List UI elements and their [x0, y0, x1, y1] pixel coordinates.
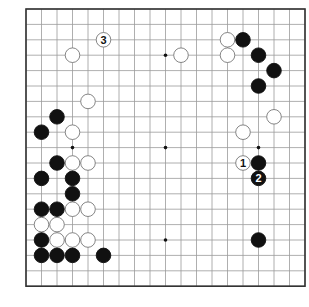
- white-stone-icon: [81, 202, 96, 217]
- white-stone-icon: [236, 125, 251, 140]
- white-stone-icon: [81, 233, 96, 248]
- black-stone-icon: [251, 79, 266, 94]
- white-stone-icon: [65, 125, 80, 140]
- black-stone-icon: [50, 156, 65, 171]
- white-stone-icon: [50, 233, 65, 248]
- black-stone-icon: [96, 248, 111, 263]
- star-point-icon: [164, 53, 168, 57]
- white-stone-icon: [81, 94, 96, 109]
- black-stone-icon: [251, 233, 266, 248]
- black-stone-icon: [34, 202, 49, 217]
- black-stone-icon: [65, 187, 80, 202]
- black-stone-icon: [50, 110, 65, 125]
- black-stone-icon: [236, 33, 251, 48]
- black-stone-icon: [34, 125, 49, 140]
- star-point-icon: [164, 238, 168, 242]
- go-board: 123: [0, 0, 309, 307]
- star-point-icon: [71, 146, 75, 150]
- white-stone-icon: [65, 233, 80, 248]
- white-stone-icon: [65, 48, 80, 63]
- white-stone-icon: [174, 48, 189, 63]
- white-stone-icon: [220, 33, 235, 48]
- black-stone-icon: [251, 48, 266, 63]
- black-stone-icon: [65, 171, 80, 186]
- move-number-label: 3: [100, 34, 106, 46]
- white-stone-icon: [34, 217, 49, 232]
- black-stone-icon: [34, 233, 49, 248]
- black-stone-icon: [65, 248, 80, 263]
- star-point-icon: [257, 146, 261, 150]
- star-point-icon: [164, 146, 168, 150]
- move-number-label: 2: [255, 172, 261, 184]
- white-stone-icon: [65, 202, 80, 217]
- white-stone-icon: [65, 156, 80, 171]
- black-stone-icon: [251, 156, 266, 171]
- move-number-label: 1: [240, 157, 246, 169]
- black-stone-icon: [34, 171, 49, 186]
- white-stone-icon: [81, 156, 96, 171]
- black-stone-icon: [267, 63, 282, 78]
- black-stone-icon: [34, 248, 49, 263]
- white-stone-icon: [50, 217, 65, 232]
- white-stone-icon: [267, 110, 282, 125]
- white-stone-icon: [220, 48, 235, 63]
- black-stone-icon: [50, 248, 65, 263]
- black-stone-icon: [50, 202, 65, 217]
